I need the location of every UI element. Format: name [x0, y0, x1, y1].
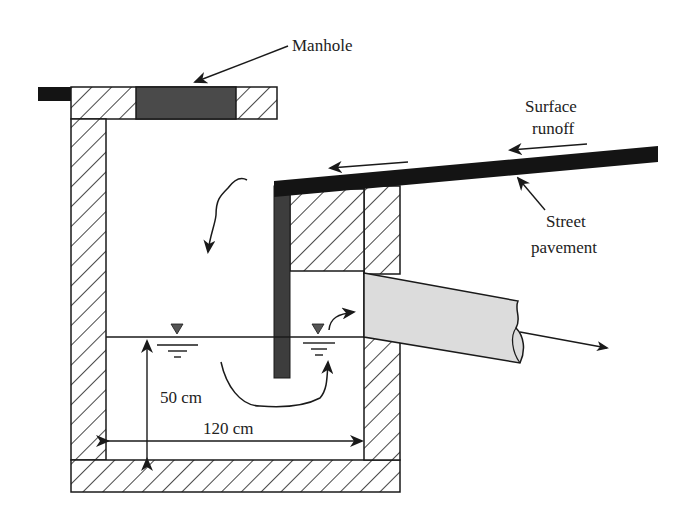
- flow-arrow-to-pipe-icon: [329, 312, 354, 330]
- manhole-label: Manhole: [292, 36, 352, 55]
- depth-dimension-label: 50 cm: [160, 388, 202, 407]
- manhole-cover: [136, 87, 236, 119]
- right-wall-lower: [364, 337, 400, 460]
- runoff-arrow-left-icon: [330, 162, 408, 168]
- ground-strip-left: [38, 87, 72, 101]
- pavement-leader-icon: [518, 178, 545, 210]
- street-pavement: [274, 146, 658, 197]
- outflow-arrow-icon: [520, 332, 607, 348]
- flow-arrow-down-icon: [208, 178, 247, 252]
- surface-runoff-label-2: runoff: [532, 119, 575, 138]
- top-slab: [38, 87, 277, 119]
- left-wall: [71, 119, 106, 460]
- street-label-1: Street: [546, 212, 586, 231]
- manhole-leader-icon: [195, 46, 288, 82]
- right-wall-upper: [364, 186, 400, 274]
- inlet-block: [290, 189, 364, 271]
- bottom-slab: [71, 460, 400, 492]
- surface-runoff-label-1: Surface: [525, 97, 577, 116]
- water-level-icon-right: [303, 324, 335, 355]
- water-level-icon-left: [157, 324, 198, 357]
- street-label-2: pavement: [531, 238, 597, 257]
- runoff-arrow-right-icon: [510, 144, 587, 150]
- baffle: [274, 186, 290, 378]
- width-dimension-label: 120 cm: [203, 419, 254, 438]
- manhole-diagram: Manhole Surface runoff Street pavement 5…: [0, 0, 694, 518]
